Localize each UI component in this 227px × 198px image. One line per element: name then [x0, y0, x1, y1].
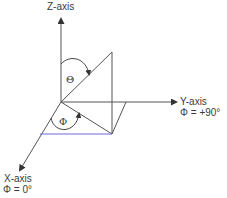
y-parallel-line [112, 102, 126, 134]
y-axis-label: Y-axis [180, 96, 207, 107]
y-axis-phi-label: Φ = +90° [180, 107, 220, 118]
x-axis-label: X-axis [4, 173, 32, 184]
z-axis-label: Z-axis [47, 1, 74, 12]
x-axis-phi-label: Φ = 0° [3, 184, 32, 195]
theta-symbol: Θ [66, 74, 74, 85]
spherical-coordinates-diagram: Z-axis Y-axis Φ = +90° X-axis Φ = 0° Θ Φ [0, 0, 227, 198]
phi-symbol: Φ [59, 116, 67, 127]
x-axis [20, 102, 61, 170]
theta-arc [61, 59, 89, 74]
